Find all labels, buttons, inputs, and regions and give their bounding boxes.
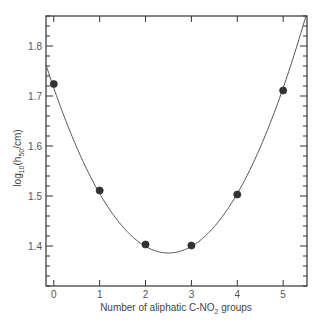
data-point	[280, 87, 287, 94]
x-tick-label: 5	[280, 289, 286, 300]
x-tick-label: 4	[234, 289, 240, 300]
x-tick-label: 1	[97, 289, 103, 300]
x-axis-label: Number of aliphatic C-NO2 groups	[100, 302, 252, 315]
data-point	[188, 242, 195, 249]
plot-frame	[46, 16, 307, 286]
y-tick-label: 1.5	[28, 191, 42, 202]
data-point	[50, 80, 57, 87]
data-point	[234, 191, 241, 198]
x-tick-label: 2	[143, 289, 149, 300]
y-tick-label: 1.8	[28, 41, 42, 52]
data-point	[142, 241, 149, 248]
y-axis-label: log10(h50/cm)	[12, 129, 25, 186]
axis-ticks	[46, 16, 307, 286]
y-tick-label: 1.6	[28, 141, 42, 152]
tick-labels: 0123451.41.51.61.71.8	[28, 41, 286, 301]
y-tick-label: 1.4	[28, 241, 42, 252]
y-tick-label: 1.7	[28, 91, 42, 102]
fit-curve	[46, 17, 306, 253]
plot-border	[46, 16, 307, 286]
data-point	[96, 187, 103, 194]
data-points	[50, 80, 287, 249]
x-tick-label: 0	[51, 289, 57, 300]
chart: 0123451.41.51.61.71.8 Number of aliphati…	[0, 0, 320, 320]
x-tick-label: 3	[189, 289, 195, 300]
